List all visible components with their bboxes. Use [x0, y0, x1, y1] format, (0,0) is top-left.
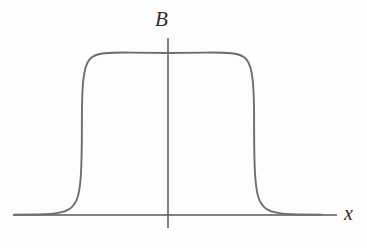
figure-container: B x [0, 0, 367, 248]
field-profile-chart [0, 0, 367, 248]
x-axis-label: x [344, 203, 353, 223]
y-axis-label: B [155, 9, 168, 30]
